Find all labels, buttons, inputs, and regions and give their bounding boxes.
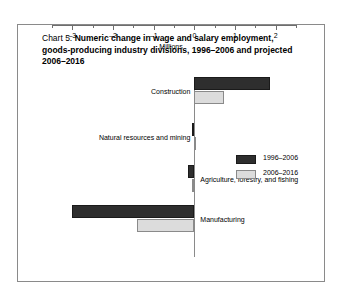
legend-label: 2006–2016 (263, 169, 298, 176)
x-axis-tick (93, 25, 94, 28)
bar (188, 165, 194, 178)
legend-item: 1996–2006 (236, 153, 320, 168)
x-axis-tick (255, 25, 256, 28)
chart-figure-panel: Chart 5. Numeric change in wage and sala… (17, 24, 325, 282)
x-axis-tick (276, 25, 277, 30)
x-axis-tick-label: –1 (142, 32, 166, 39)
x-axis-tick (296, 25, 297, 28)
x-axis-tick-label: –2 (101, 32, 125, 39)
x-axis-tick (235, 25, 236, 30)
x-axis-tick-label: 1 (223, 32, 247, 39)
x-axis-tick-label: –3 (60, 32, 84, 39)
bar (192, 179, 194, 192)
category-label: Construction (151, 87, 190, 96)
x-axis-tick (133, 25, 134, 28)
bar (137, 219, 194, 232)
category-label: Natural resources and mining (99, 133, 190, 142)
x-axis-tick (72, 25, 73, 30)
bar (194, 77, 269, 90)
x-axis-tick (52, 25, 53, 28)
x-axis-tick (154, 25, 155, 30)
x-axis-tick-label: 2 (264, 32, 288, 39)
legend-swatch (236, 155, 256, 164)
x-axis: Millions –3–2–1012 (18, 25, 324, 55)
bar (72, 205, 194, 218)
bar (194, 91, 224, 104)
chart-legend: 1996–20062006–2016 (236, 153, 320, 183)
x-axis-tick (113, 25, 114, 30)
bar (194, 137, 196, 150)
legend-item: 2006–2016 (236, 168, 320, 183)
x-axis-tick (174, 25, 175, 28)
bar (192, 123, 194, 136)
x-axis-tick-label: 0 (182, 32, 206, 39)
zero-axis-line (194, 77, 195, 257)
x-axis-tick (215, 25, 216, 28)
x-axis-tick (194, 25, 195, 30)
legend-swatch (236, 170, 256, 179)
category-label: Manufacturing (200, 215, 244, 224)
x-axis-title: Millions (18, 43, 324, 50)
legend-label: 1996–2006 (263, 154, 298, 161)
